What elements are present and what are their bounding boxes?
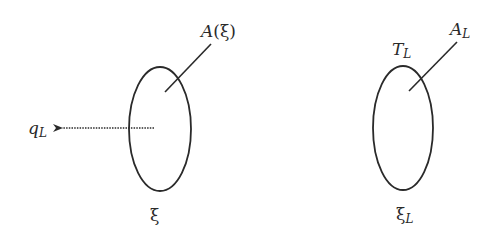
region-label-xiL: ξL bbox=[396, 204, 413, 226]
arrow-label-qL: qL bbox=[28, 118, 47, 140]
right-ellipse bbox=[373, 66, 433, 190]
region-label-xi: ξ bbox=[150, 205, 159, 225]
right-region: AL TL ξL bbox=[373, 19, 470, 226]
right-leader-line bbox=[409, 42, 457, 91]
surface-label-AL: AL bbox=[448, 19, 470, 41]
left-leader-line bbox=[165, 44, 211, 92]
left-region: A(ξ) qL ξ bbox=[28, 21, 236, 225]
left-ellipse bbox=[129, 67, 191, 191]
diagram-canvas: A(ξ) qL ξ AL TL ξL bbox=[0, 0, 492, 240]
boundary-label-TL: TL bbox=[392, 39, 411, 61]
surface-label-A-xi: A(ξ) bbox=[199, 21, 236, 41]
